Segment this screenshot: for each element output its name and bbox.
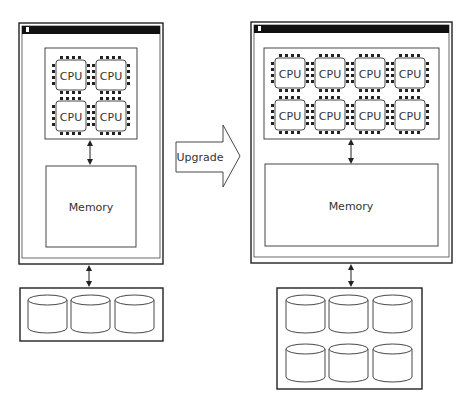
window-control-icon xyxy=(26,27,29,32)
disk-icon xyxy=(329,295,368,333)
storage-after xyxy=(277,288,422,389)
cpu-group-after: CPU CPU CPU CPU CPU CPU CPU CPU xyxy=(264,48,439,139)
upgrade-arrow: Upgrade xyxy=(176,125,240,187)
cpu-chip: CPU xyxy=(92,97,130,135)
cpu-label: CPU xyxy=(279,68,301,81)
memory-after: Memory xyxy=(265,164,438,246)
disk-icon xyxy=(373,344,412,382)
memory-label: Memory xyxy=(329,200,374,213)
cpu-chip: CPU xyxy=(271,54,309,92)
memory-before: Memory xyxy=(46,166,136,247)
disk-icon xyxy=(286,344,325,382)
cpu-label: CPU xyxy=(100,111,122,124)
cpu-chip: CPU xyxy=(351,96,389,134)
cpu-chip: CPU xyxy=(92,56,130,94)
cpu-label: CPU xyxy=(359,110,381,123)
storage-before xyxy=(20,288,163,341)
cpu-group-before: CPU CPU CPU CPU xyxy=(45,48,137,139)
disk-icon xyxy=(28,295,67,333)
cpu-chip: CPU xyxy=(52,56,90,94)
disk-icon xyxy=(373,295,412,333)
upgrade-label: Upgrade xyxy=(176,151,223,164)
disk-icon xyxy=(71,295,110,333)
cpu-label: CPU xyxy=(319,68,341,81)
window-control-icon xyxy=(258,26,261,31)
diagram-canvas: CPU CPU CPU CPU Memory Upgrade xyxy=(0,0,471,404)
cpu-chip: CPU xyxy=(391,54,429,92)
cpu-label: CPU xyxy=(359,68,381,81)
disk-icon xyxy=(329,344,368,382)
cpu-label: CPU xyxy=(319,110,341,123)
server-before: CPU CPU CPU CPU Memory xyxy=(19,23,163,264)
cpu-label: CPU xyxy=(60,111,82,124)
disk-icon xyxy=(115,295,154,333)
cpu-label: CPU xyxy=(60,70,82,83)
cpu-label: CPU xyxy=(399,68,421,81)
title-bar xyxy=(254,25,449,33)
title-bar xyxy=(22,26,160,34)
cpu-chip: CPU xyxy=(311,54,349,92)
cpu-label: CPU xyxy=(399,110,421,123)
memory-label: Memory xyxy=(69,201,114,214)
cpu-chip: CPU xyxy=(391,96,429,134)
disk-icon xyxy=(286,295,325,333)
cpu-label: CPU xyxy=(279,110,301,123)
cpu-label: CPU xyxy=(100,70,122,83)
cpu-chip: CPU xyxy=(271,96,309,134)
server-after: CPU CPU CPU CPU CPU CPU CPU CPU Memory xyxy=(251,22,452,263)
cpu-chip: CPU xyxy=(351,54,389,92)
cpu-chip: CPU xyxy=(52,97,90,135)
cpu-chip: CPU xyxy=(311,96,349,134)
